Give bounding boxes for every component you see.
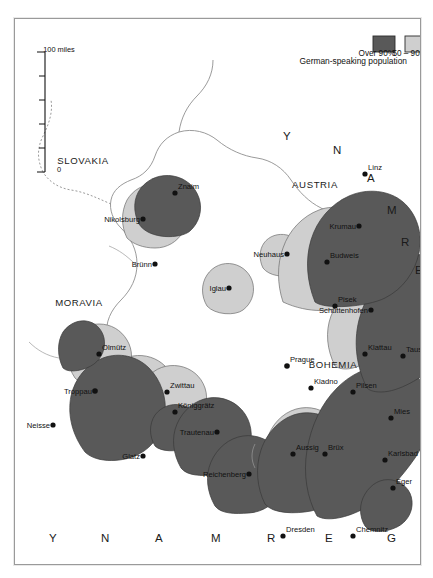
region-label-slovakia: SLOVAKIA: [57, 155, 109, 166]
city-nikolsburg: Nikolsburg: [104, 215, 145, 224]
country-letter: G: [387, 532, 396, 544]
map-rotated-canvas: Neisse Troppau Olmütz Glat: [15, 19, 420, 564]
city-trautenau: Trautenau: [180, 428, 220, 437]
country-letter: A: [155, 532, 163, 544]
city-label: Iglau: [210, 284, 226, 293]
country-letter: M: [211, 532, 221, 544]
city-dot: [152, 261, 157, 266]
city-dot: [362, 351, 367, 356]
city-dot: [140, 216, 145, 221]
city-label: Krumau: [329, 222, 356, 231]
city-label: Schüttenhofen: [319, 306, 368, 315]
city-dot: [400, 353, 405, 358]
city-dot: [50, 422, 55, 427]
country-letter: Y: [283, 130, 291, 142]
city-label: Dresden: [286, 525, 315, 534]
city-dot: [284, 251, 289, 256]
city-label: Budweis: [330, 251, 359, 260]
legend-label-50-90: 50 – 90%: [392, 49, 420, 58]
city-label: Chemnitz: [356, 525, 388, 534]
city-label: Reichenberg: [203, 470, 246, 479]
city-dot: [322, 451, 327, 456]
region-label-moravia: MORAVIA: [55, 297, 103, 308]
city-dot: [308, 385, 313, 390]
city-dot: [368, 307, 373, 312]
city-label: Karlsbad: [388, 449, 418, 458]
city-dot: [246, 471, 251, 476]
city-label: Brünn: [132, 260, 152, 269]
city-dot: [324, 259, 329, 264]
city-label: Pilsen: [356, 381, 377, 390]
city-dot: [164, 389, 169, 394]
city-label: Neuhaus: [254, 250, 285, 259]
city-label: Klattau: [368, 343, 392, 352]
city-dot: [226, 285, 231, 290]
city-label: Königgrätz: [178, 401, 215, 410]
city-schuttenhofen: Schüttenhofen: [319, 306, 374, 315]
city-dot: [214, 429, 219, 434]
city-dot: [390, 485, 395, 490]
legend-label-over-90: Over 90%: [359, 49, 395, 58]
city-label: Eger: [396, 477, 413, 486]
city-label: Zwittau: [170, 381, 194, 390]
country-letter: E: [325, 532, 333, 544]
city-dot: [284, 363, 290, 369]
country-letter: Y: [49, 532, 57, 544]
city-dot: [382, 457, 387, 462]
map-frame: Neisse Troppau Olmütz Glat: [14, 18, 421, 565]
city-dot: [350, 533, 355, 538]
city-label: Glatz: [122, 452, 140, 461]
city-dot: [92, 388, 98, 394]
country-letter: R: [401, 236, 409, 248]
city-dot: [172, 409, 177, 414]
city-label: Kladno: [314, 377, 338, 386]
city-dot: [96, 351, 101, 356]
country-letter: N: [333, 144, 341, 156]
city-dot: [356, 223, 361, 228]
city-dot: [280, 533, 285, 538]
city-label: Pisek: [338, 295, 357, 304]
city-label: Mies: [394, 407, 410, 416]
country-letter: M: [387, 204, 397, 216]
city-dot: [388, 415, 393, 420]
city-label: Olmütz: [102, 343, 126, 352]
region-label-austria: AUSTRIA: [292, 179, 338, 190]
city-label: Trautenau: [180, 428, 214, 437]
city-dot: [290, 451, 295, 456]
scale-max-label: 100 miles: [43, 45, 75, 54]
country-letter: R: [267, 532, 275, 544]
city-reichenberg: Reichenberg: [203, 470, 252, 479]
city-label: Troppau: [64, 387, 92, 396]
city-label: Brüx: [328, 443, 344, 452]
region-label-bohemia: BOHEMIA: [309, 359, 357, 370]
city-label: Nikolsburg: [104, 215, 140, 224]
city-label: Aussig: [296, 443, 319, 452]
city-label: Neisse: [27, 421, 50, 430]
city-dot: [350, 389, 355, 394]
map-svg: Neisse Troppau Olmütz Glat: [15, 19, 420, 564]
city-dot: [172, 190, 177, 195]
country-letter: E: [415, 264, 420, 276]
map-page: Neisse Troppau Olmütz Glat: [0, 0, 433, 578]
city-dot: [140, 453, 145, 458]
city-label: Linz: [368, 163, 382, 172]
scale-min-label: 0: [57, 165, 61, 174]
country-letter: N: [101, 532, 109, 544]
country-letter: A: [367, 172, 375, 184]
city-label: Taus: [406, 345, 420, 354]
city-label: Znaim: [178, 182, 199, 191]
